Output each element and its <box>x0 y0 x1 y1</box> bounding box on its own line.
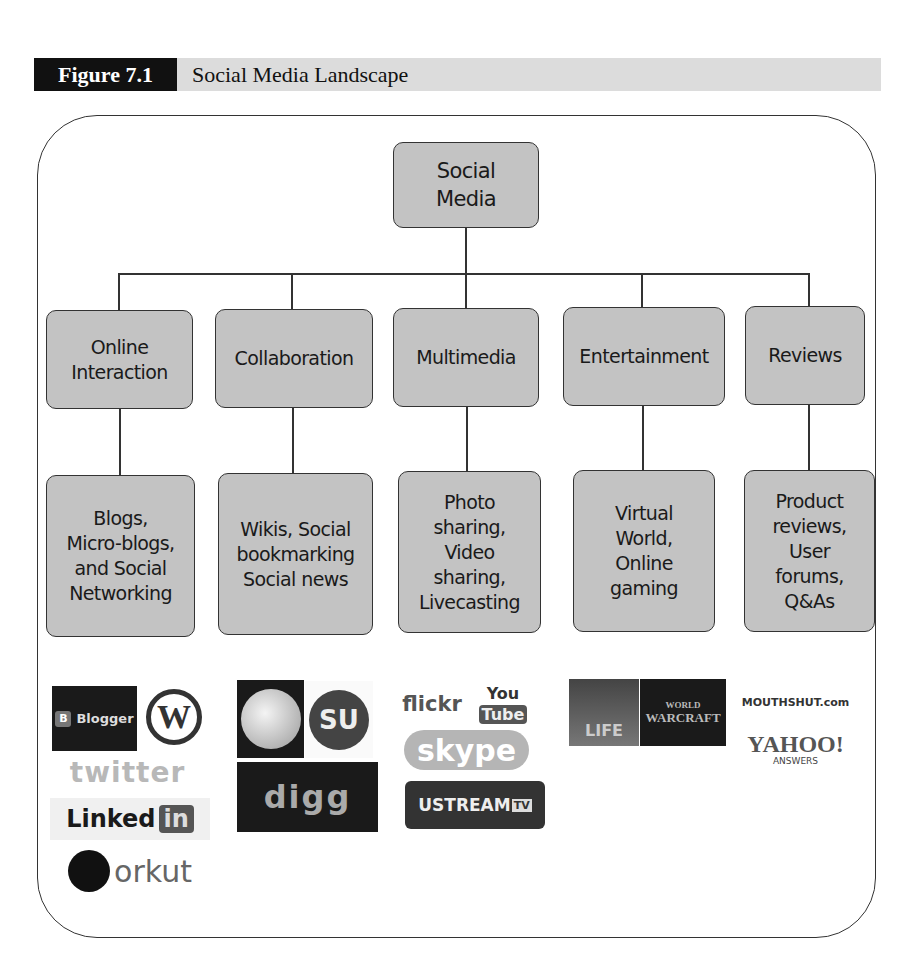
stumbleupon-logo: SU <box>305 681 373 758</box>
skype-logo: skype <box>404 730 529 770</box>
digg-logo: digg <box>237 762 378 832</box>
connector-4 <box>641 273 643 308</box>
wordpress-icon: W <box>146 689 202 745</box>
blogger-icon: B <box>55 711 71 727</box>
wikipedia-logo <box>237 680 304 758</box>
mouthshut-logo: MOUTHSHUT.com <box>738 690 853 714</box>
connector-detail-5 <box>808 404 810 470</box>
linkedin-logo: Linked in <box>50 798 210 840</box>
connector-horizontal <box>118 273 809 275</box>
figure-title: Social Media Landscape <box>192 58 408 91</box>
category-online-interaction: Online Interaction <box>46 310 193 409</box>
category-reviews: Reviews <box>745 306 865 405</box>
connector-detail-1 <box>119 408 121 476</box>
connector-detail-2 <box>292 407 294 474</box>
category-multimedia: Multimedia <box>393 308 539 407</box>
root-node: Social Media <box>393 142 539 228</box>
yahoo-answers-logo: YAHOO! ANSWERS <box>743 728 848 770</box>
world-of-warcraft-logo: WORLD WARCRAFT <box>640 679 726 746</box>
detail-reviews: Product reviews, User forums, Q&As <box>744 470 875 632</box>
wikipedia-globe-icon <box>241 689 301 749</box>
detail-collaboration: Wikis, Social bookmarking Social news <box>218 473 373 635</box>
myspace-icon <box>68 850 110 892</box>
flickr-logo: flickr <box>402 686 462 722</box>
youtube-logo: You Tube <box>467 686 539 722</box>
category-entertainment: Entertainment <box>563 307 725 406</box>
detail-multimedia: Photo sharing, Video sharing, Livecastin… <box>398 471 541 633</box>
twitter-logo: twitter <box>50 752 205 792</box>
figure-label: Figure 7.1 <box>34 58 177 91</box>
orkut-logo: orkut <box>50 846 210 896</box>
connector-detail-3 <box>466 406 468 472</box>
connector-5 <box>808 273 810 307</box>
connector-root-down <box>465 227 467 274</box>
connector-detail-4 <box>642 405 644 471</box>
category-collaboration: Collaboration <box>215 309 373 408</box>
connector-3 <box>465 273 467 309</box>
connector-1 <box>118 273 120 311</box>
wordpress-logo: W <box>144 683 204 751</box>
detail-online-interaction: Blogs, Micro-blogs, and Social Networkin… <box>46 475 195 637</box>
detail-entertainment: Virtual World, Online gaming <box>573 470 715 632</box>
blogger-logo: B Blogger <box>52 686 137 751</box>
ustream-logo: USTREAM TV <box>405 781 545 829</box>
connector-2 <box>291 273 293 310</box>
second-life-logo: LIFE <box>569 679 639 746</box>
